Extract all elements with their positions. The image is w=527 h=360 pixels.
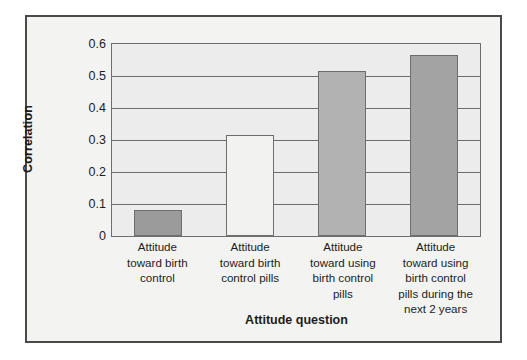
y-axis-tick-label: 0.6 — [89, 37, 106, 51]
category-label-line: Attitude — [204, 239, 297, 255]
y-axis-tick-label: 0.2 — [89, 165, 106, 179]
x-axis-category-label: Attitudetoward birthcontrol — [111, 239, 204, 286]
category-label-line: birth control — [297, 270, 390, 286]
y-axis-tick-label: 0.4 — [89, 101, 106, 115]
category-label-line: pills — [297, 286, 390, 302]
y-axis-tick-label: 0.3 — [89, 133, 106, 147]
category-label-line: control — [111, 270, 204, 286]
category-label-line: toward using — [389, 255, 482, 271]
x-axis-category-label: Attitudetoward birthcontrol pills — [204, 239, 297, 286]
bar — [318, 71, 366, 236]
category-label-line: birth control — [389, 270, 482, 286]
x-axis-category-label: Attitudetoward usingbirth controlpills — [297, 239, 390, 301]
plot-area: 00.10.20.30.40.50.6 — [111, 43, 481, 237]
y-axis-tick-label: 0.5 — [89, 69, 106, 83]
category-label-line: toward birth — [204, 255, 297, 271]
category-label-line: Attitude — [297, 239, 390, 255]
category-label-line: Attitude — [389, 239, 482, 255]
y-axis-tick-label: 0 — [99, 229, 106, 243]
category-label-line: control pills — [204, 270, 297, 286]
category-label-line: toward using — [297, 255, 390, 271]
category-label-line: pills during the — [389, 286, 482, 302]
y-axis-tick-label: 0.1 — [89, 197, 106, 211]
category-label-line: toward birth — [111, 255, 204, 271]
x-axis-category-labels: Attitudetoward birthcontrolAttitudetowar… — [111, 239, 482, 309]
bar — [410, 55, 458, 236]
x-axis-title: Attitude question — [111, 313, 482, 327]
bar — [134, 210, 182, 236]
category-label-line: Attitude — [111, 239, 204, 255]
bar — [226, 135, 274, 236]
x-axis-category-label: Attitudetoward usingbirth controlpills d… — [389, 239, 482, 317]
y-axis-title: Correlation — [21, 69, 39, 209]
chart-figure: Correlation 00.10.20.30.40.50.6 Attitude… — [25, 15, 502, 343]
